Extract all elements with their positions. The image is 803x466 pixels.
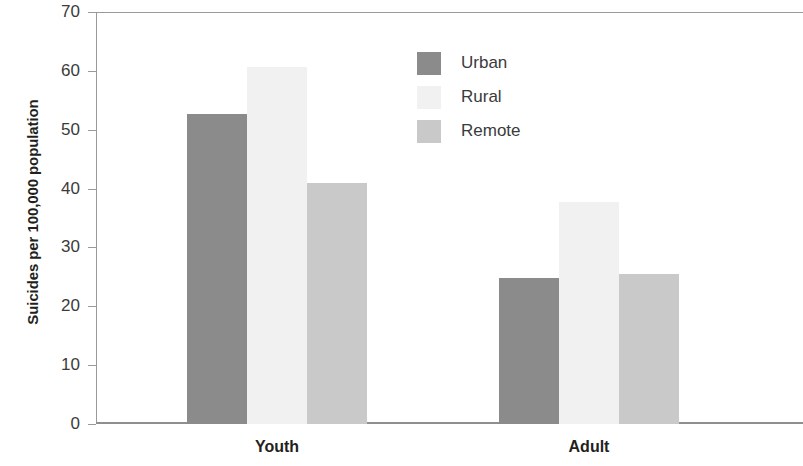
legend-swatch-icon xyxy=(417,52,441,75)
y-axis-tick-mark xyxy=(88,247,96,248)
y-axis-tick-mark xyxy=(88,365,96,366)
legend-label: Rural xyxy=(461,87,502,107)
y-axis-tick-label: 40 xyxy=(34,179,80,199)
y-axis-tick-mark xyxy=(88,130,96,131)
legend-label: Remote xyxy=(461,121,521,141)
legend-swatch-icon xyxy=(417,120,441,143)
y-axis-tick-label: 20 xyxy=(34,296,80,316)
legend: UrbanRuralRemote xyxy=(417,46,617,148)
y-axis-tick-mark xyxy=(88,306,96,307)
y-axis-tick-label: 50 xyxy=(34,120,80,140)
y-axis-tick-label: 0 xyxy=(34,414,80,434)
bar-chart: Suicides per 100,000 population 01020304… xyxy=(0,0,803,466)
bar-youth-remote xyxy=(307,183,367,424)
bar-adult-remote xyxy=(619,274,679,424)
bar-adult-urban xyxy=(499,278,559,424)
y-axis-tick-label: 10 xyxy=(34,355,80,375)
bar-youth-urban xyxy=(187,114,247,424)
x-axis-category-label-adult: Adult xyxy=(569,438,610,456)
y-axis-tick-label: 30 xyxy=(34,237,80,257)
legend-swatch-icon xyxy=(417,86,441,109)
legend-item-remote: Remote xyxy=(417,114,617,148)
bar-adult-rural xyxy=(559,202,619,424)
bar-youth-rural xyxy=(247,67,307,424)
legend-item-rural: Rural xyxy=(417,80,617,114)
x-axis-category-labels: YouthAdult xyxy=(96,438,803,462)
y-axis-tick-mark xyxy=(88,12,96,13)
x-axis-category-label-youth: Youth xyxy=(255,438,299,456)
y-axis-tick-mark xyxy=(88,71,96,72)
legend-item-urban: Urban xyxy=(417,46,617,80)
y-axis-tick-mark xyxy=(88,189,96,190)
legend-label: Urban xyxy=(461,53,507,73)
y-axis-tick-mark xyxy=(88,424,96,425)
y-axis-tick-labels: 010203040506070 xyxy=(34,0,80,466)
y-axis-tick-label: 60 xyxy=(34,61,80,81)
y-axis-tick-label: 70 xyxy=(34,2,80,22)
